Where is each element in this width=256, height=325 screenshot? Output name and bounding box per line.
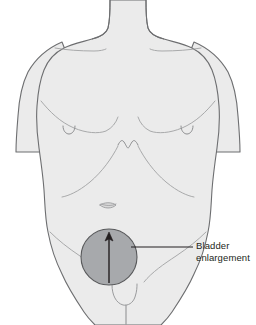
bladder-enlargement-label: Bladder enlargement: [196, 240, 256, 263]
anatomy-figure: [0, 0, 256, 325]
illustration-canvas: Bladder enlargement: [0, 0, 256, 325]
